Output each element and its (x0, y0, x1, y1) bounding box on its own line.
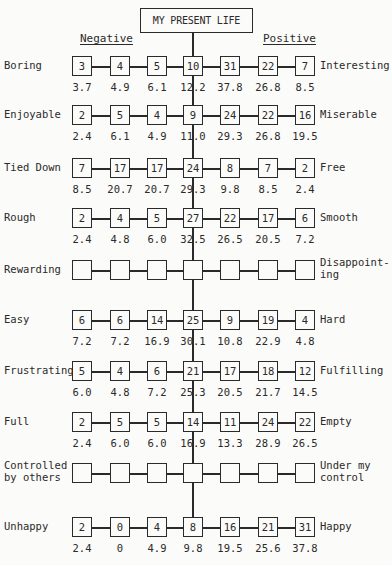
percent-label: 10.8 (210, 335, 250, 347)
rating-box: 4 (295, 310, 315, 330)
rating-box: 17 (147, 158, 167, 178)
rating-box: 7 (295, 56, 315, 76)
percent-label: 32.5 (173, 233, 213, 245)
rating-box: 21 (258, 517, 278, 537)
scale-row: Boring33.744.956.11012.23137.82226.878.5… (0, 56, 392, 76)
rating-box: 6 (72, 310, 92, 330)
percent-label: 19.5 (210, 542, 250, 554)
rating-box (110, 463, 130, 483)
percent-label: 14.5 (285, 386, 325, 398)
rating-box (72, 260, 92, 280)
rating-box: 0 (110, 517, 130, 537)
percent-label: 29.3 (210, 130, 250, 142)
percent-label: 20.5 (210, 386, 250, 398)
scale-row: Full22.456.056.01416.91113.32428.92226.5… (0, 412, 392, 432)
percent-label: 28.9 (248, 437, 288, 449)
rating-box: 22 (295, 412, 315, 432)
percent-label: 6.0 (137, 437, 177, 449)
left-anchor-label: Full (4, 415, 29, 427)
percent-label: 6.1 (137, 81, 177, 93)
percent-label: 20.7 (100, 183, 140, 195)
percent-label: 9.8 (173, 542, 213, 554)
scale-row: Rough22.444.856.02732.52226.51720.567.2S… (0, 208, 392, 228)
percent-label: 30.1 (173, 335, 213, 347)
rating-box: 6 (147, 361, 167, 381)
percent-label: 2.4 (62, 437, 102, 449)
rating-box: 5 (147, 208, 167, 228)
left-anchor-label: Tied Down (4, 161, 61, 173)
rating-box: 25 (183, 310, 203, 330)
rating-box: 4 (110, 56, 130, 76)
left-anchor-label: Easy (4, 313, 29, 325)
rating-box: 5 (72, 361, 92, 381)
right-anchor-label: Hard (320, 313, 345, 325)
percent-label: 26.5 (285, 437, 325, 449)
right-anchor-label: Free (320, 161, 345, 173)
negative-label: Negative (80, 32, 133, 45)
rating-box: 4 (110, 208, 130, 228)
percent-label: 8.5 (285, 81, 325, 93)
rating-box: 4 (147, 105, 167, 125)
scale-row: Enjoyable22.456.144.9911.02429.32226.816… (0, 105, 392, 125)
rating-box (72, 463, 92, 483)
percent-label: 2.4 (285, 183, 325, 195)
rating-box: 5 (147, 412, 167, 432)
percent-label: 19.5 (285, 130, 325, 142)
percent-label: 4.9 (137, 542, 177, 554)
percent-label: 9.8 (210, 183, 250, 195)
scale-row: RewardingDisappoint- ing (0, 260, 392, 280)
percent-label: 37.8 (285, 542, 325, 554)
rating-box: 31 (220, 56, 240, 76)
scale-row: Tied Down78.51720.71720.72429.389.878.52… (0, 158, 392, 178)
percent-label: 2.4 (62, 233, 102, 245)
percent-label: 29.3 (173, 183, 213, 195)
rating-box: 2 (72, 208, 92, 228)
rating-box: 8 (183, 517, 203, 537)
right-anchor-label: Happy (320, 520, 352, 532)
rating-box (147, 260, 167, 280)
rating-box (110, 260, 130, 280)
rating-box: 3 (72, 56, 92, 76)
rating-box: 22 (258, 56, 278, 76)
percent-label: 25.3 (173, 386, 213, 398)
rating-box: 14 (147, 310, 167, 330)
left-anchor-label: Frustrating (4, 364, 74, 376)
percent-label: 3.7 (62, 81, 102, 93)
scale-row: Frustrating56.044.867.22125.31720.51821.… (0, 361, 392, 381)
percent-label: 26.8 (248, 130, 288, 142)
rating-box: 7 (258, 158, 278, 178)
rating-box: 4 (110, 361, 130, 381)
left-anchor-label: Boring (4, 59, 42, 71)
rating-box: 2 (72, 517, 92, 537)
percent-label: 4.9 (100, 81, 140, 93)
rating-box: 17 (110, 158, 130, 178)
rating-box (183, 463, 203, 483)
rating-box (295, 463, 315, 483)
percent-label: 8.5 (62, 183, 102, 195)
percent-label: 20.7 (137, 183, 177, 195)
rating-box: 6 (110, 310, 130, 330)
title-box: MY PRESENT LIFE (140, 8, 253, 33)
rating-box: 10 (183, 56, 203, 76)
rating-box: 4 (147, 517, 167, 537)
right-anchor-label: Fulfilling (320, 364, 383, 376)
left-anchor-label: Unhappy (4, 520, 48, 532)
percent-label: 21.7 (248, 386, 288, 398)
percent-label: 7.2 (137, 386, 177, 398)
scale-row: Controlled by othersUnder my control (0, 463, 392, 483)
percent-label: 6.0 (137, 233, 177, 245)
percent-label: 13.3 (210, 437, 250, 449)
rating-box: 16 (220, 517, 240, 537)
percent-label: 26.5 (210, 233, 250, 245)
scale-row: Easy67.267.21416.92530.1910.81922.944.8H… (0, 310, 392, 330)
rating-box: 24 (220, 105, 240, 125)
rating-box: 24 (258, 412, 278, 432)
percent-label: 6.0 (62, 386, 102, 398)
rating-box: 17 (258, 208, 278, 228)
rating-box (147, 463, 167, 483)
percent-label: 26.8 (248, 81, 288, 93)
percent-label: 22.9 (248, 335, 288, 347)
percent-label: 7.2 (285, 233, 325, 245)
percent-label: 25.6 (248, 542, 288, 554)
rating-box: 9 (220, 310, 240, 330)
